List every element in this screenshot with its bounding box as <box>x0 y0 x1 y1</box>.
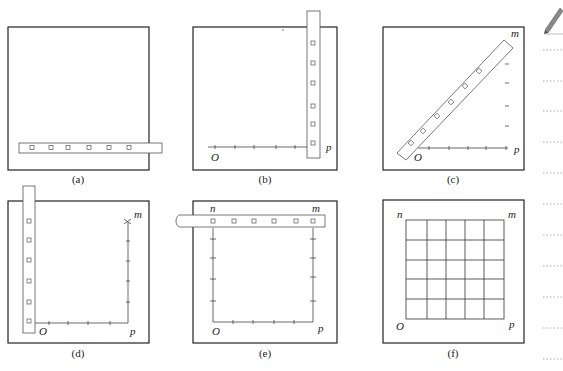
label-origin-b: O <box>211 151 219 163</box>
panel-a <box>8 27 162 170</box>
note-lines <box>543 50 563 359</box>
label-n-f: n <box>397 208 403 220</box>
grid <box>406 220 504 319</box>
caption-e: (e) <box>245 347 285 359</box>
label-p-e: p <box>318 322 324 334</box>
label-m-f: m <box>508 208 516 220</box>
ruler <box>397 40 513 160</box>
label-origin-e: O <box>212 325 220 337</box>
label-n-e: n <box>210 202 216 214</box>
diagram-canvas <box>0 0 563 371</box>
label-p-f: p <box>509 318 515 330</box>
pencil-icon <box>544 8 563 34</box>
label-m-e: m <box>312 202 320 214</box>
label-origin-f: O <box>396 320 404 332</box>
caption-b: (b) <box>245 173 285 185</box>
label-origin-d: O <box>39 325 47 337</box>
ruler <box>176 215 325 227</box>
panel-c <box>383 27 524 170</box>
panel-e <box>176 201 337 343</box>
panel-d <box>8 186 149 343</box>
label-p-c: p <box>514 143 520 155</box>
caption-f: (f) <box>433 347 473 359</box>
ruler <box>19 143 162 153</box>
label-origin-c: O <box>414 151 422 163</box>
label-m-d: m <box>134 208 142 220</box>
label-m-c: m <box>511 27 519 39</box>
ruler <box>23 186 35 333</box>
caption-d: (d) <box>58 347 98 359</box>
ruler <box>307 11 320 158</box>
panel-f <box>383 200 524 343</box>
label-p-b: p <box>326 141 332 153</box>
panel-b <box>193 11 337 170</box>
caption-c: (c) <box>433 173 473 185</box>
caption-a: (a) <box>58 173 98 185</box>
label-p-d: p <box>130 325 136 337</box>
